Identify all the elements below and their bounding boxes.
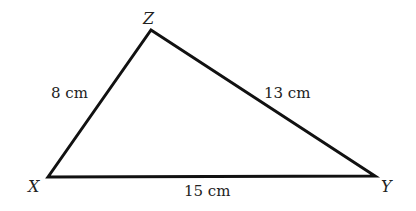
side-label-xy: 15 cm	[184, 182, 230, 200]
side-label-zy: 13 cm	[264, 84, 310, 102]
vertex-label-x: X	[26, 177, 40, 196]
vertex-label-z: Z	[142, 9, 155, 28]
side-label-xz: 8 cm	[51, 84, 88, 102]
triangle-xyz	[48, 30, 375, 177]
triangle-diagram: Z X Y 8 cm 13 cm 15 cm	[0, 0, 416, 211]
vertex-label-y: Y	[381, 177, 393, 196]
